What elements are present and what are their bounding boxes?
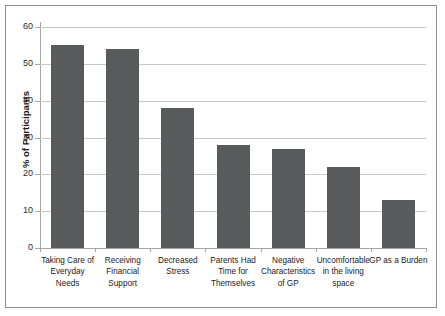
x-tick-mark-3 [205, 248, 206, 252]
y-tick-label-0: 0 [9, 243, 33, 252]
category-label-line: space [310, 278, 377, 289]
x-axis-category-labels: Taking Care ofEverydayNeedsReceivingFina… [40, 255, 426, 305]
x-tick-mark-2 [150, 248, 151, 252]
y-tick-label-10: 10 [9, 206, 33, 215]
x-tick-mark-4 [261, 248, 262, 252]
plot-area [40, 22, 426, 248]
category-label-line: in the living [310, 266, 377, 277]
bar-series [40, 22, 426, 248]
gridline-0 [40, 248, 426, 249]
bar-2 [161, 108, 194, 248]
category-label-6: GP as a Burden [365, 255, 432, 266]
y-tick-mark-40 [35, 101, 40, 102]
x-tick-mark-6 [371, 248, 372, 252]
y-axis-title: % of Participants [20, 70, 31, 190]
x-tick-mark-5 [316, 248, 317, 252]
x-tick-mark-0 [40, 248, 41, 252]
y-tick-mark-20 [35, 174, 40, 175]
y-tick-label-50: 50 [9, 59, 33, 68]
bar-1 [106, 49, 139, 248]
category-label-line: GP as a Burden [365, 255, 432, 266]
bar-3 [217, 145, 250, 248]
y-tick-mark-50 [35, 64, 40, 65]
x-tick-mark-7 [426, 248, 427, 252]
bar-6 [382, 200, 415, 248]
bar-0 [51, 45, 84, 248]
bar-4 [272, 149, 305, 248]
y-tick-label-60: 60 [9, 22, 33, 31]
y-tick-mark-30 [35, 138, 40, 139]
x-tick-mark-1 [95, 248, 96, 252]
bar-5 [327, 167, 360, 248]
y-tick-mark-60 [35, 27, 40, 28]
chart-frame: 0102030405060 % of Participants Taking C… [5, 5, 437, 308]
y-tick-mark-10 [35, 211, 40, 212]
category-label-line: Support [89, 278, 156, 289]
